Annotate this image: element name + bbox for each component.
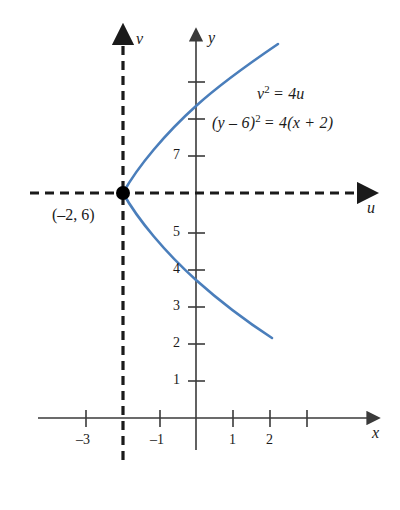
equation-uv: v2= 4u bbox=[257, 85, 305, 103]
footer-caption-bar: 圄 4 bbox=[0, 468, 400, 510]
y-tick-label-2: 2 bbox=[173, 335, 180, 351]
u-axis-label: u bbox=[367, 199, 375, 217]
y-tick-label-5: 5 bbox=[173, 224, 180, 240]
v-axis-label: v bbox=[136, 30, 143, 48]
parabola-lower-branch bbox=[123, 193, 272, 338]
figure-parabola-translation: v y u x v2= 4u (y – 6)2= 4(x + 2) (–2, 6… bbox=[0, 0, 400, 510]
x-tick-label-neg1: –1 bbox=[150, 432, 164, 448]
figure-canvas bbox=[0, 0, 400, 510]
x-tick-label-neg3: –3 bbox=[76, 432, 90, 448]
equation-xy-rest: = 4(x + 2) bbox=[261, 114, 333, 131]
x-tick-label-2: 2 bbox=[266, 432, 273, 448]
equation-uv-rest: = 4u bbox=[270, 85, 305, 102]
x-tick-label-1: 1 bbox=[229, 432, 236, 448]
y-tick-label-4: 4 bbox=[173, 261, 180, 277]
vertex-coordinate-label: (–2, 6) bbox=[52, 206, 95, 224]
y-axis-label: y bbox=[208, 29, 215, 47]
equation-xy-exponent: 2 bbox=[255, 112, 261, 124]
y-tick-label-7: 7 bbox=[173, 147, 180, 163]
parabola-curve bbox=[123, 44, 278, 338]
x-axis bbox=[38, 410, 368, 427]
equation-xy-left: (y – 6) bbox=[212, 114, 255, 131]
y-tick-label-1: 1 bbox=[173, 372, 180, 388]
equation-xy: (y – 6)2= 4(x + 2) bbox=[212, 114, 333, 132]
x-axis-label: x bbox=[372, 424, 379, 442]
vertex-point-marker bbox=[116, 186, 130, 200]
y-tick-label-3: 3 bbox=[173, 298, 180, 314]
